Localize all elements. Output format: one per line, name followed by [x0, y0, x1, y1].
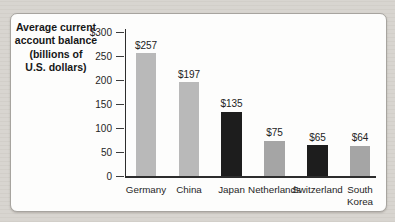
y-axis-tick-label: 100	[68, 123, 112, 134]
bar-china	[179, 82, 200, 176]
y-axis-tick-label: 0	[68, 171, 112, 182]
y-axis-tick-mark	[116, 176, 124, 178]
y-axis-tick-mark	[116, 104, 124, 106]
bar-japan	[221, 112, 242, 176]
y-axis-tick-mark	[116, 152, 124, 154]
y-axis-tick-label: $300	[68, 27, 112, 38]
y-axis-tick-label: 50	[68, 147, 112, 158]
x-axis-label-south-korea: South Korea	[337, 184, 383, 208]
bar-germany	[136, 53, 157, 176]
y-axis-tick-label: 250	[68, 51, 112, 62]
value-label-japan: $135	[207, 98, 257, 109]
y-axis-tick-label: 200	[68, 75, 112, 86]
bar-south-korea	[350, 146, 371, 176]
x-axis-line	[125, 176, 376, 178]
y-axis-tick-label: 150	[68, 99, 112, 110]
chart-panel: Average current account balance (billion…	[10, 13, 387, 212]
value-label-china: $197	[164, 69, 214, 80]
bar-switzerland	[307, 145, 328, 176]
figure-background: Average current account balance (billion…	[0, 0, 395, 222]
chart-title-line: U.S. dollars)	[14, 61, 98, 74]
y-axis-line	[125, 29, 127, 177]
y-axis-tick-mark	[116, 56, 124, 58]
bar-netherlands	[264, 141, 285, 176]
y-axis-tick-mark	[116, 32, 124, 34]
y-axis-tick-mark	[116, 128, 124, 130]
value-label-germany: $257	[121, 40, 171, 51]
y-axis-tick-mark	[116, 80, 124, 82]
value-label-south-korea: $64	[335, 132, 385, 143]
